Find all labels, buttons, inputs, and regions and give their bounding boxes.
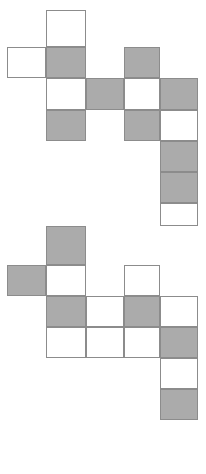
grid-cell-lower-r9-c3	[124, 296, 160, 327]
grid-cell-lower-r10-c1	[46, 327, 87, 358]
grid-cell-lower-r9-c1	[46, 296, 87, 327]
grid-cell-lower-r10-c3	[124, 327, 160, 358]
grid-cell-lower-r9-c4	[160, 296, 198, 327]
grid-cell-lower-r12-c4	[160, 389, 198, 420]
grid-cell-lower-r10-c4	[160, 327, 198, 358]
lower-figure	[0, 0, 206, 474]
grid-cell-lower-r11-c4	[160, 358, 198, 389]
grid-cell-lower-r7-c1	[46, 226, 87, 265]
grid-cell-lower-r8-c1	[46, 265, 87, 296]
grid-cell-lower-r9-c2	[86, 296, 124, 327]
grid-cell-lower-r10-c2	[86, 327, 124, 358]
figure-canvas	[0, 0, 206, 474]
grid-cell-lower-r8-c0	[7, 265, 46, 296]
grid-cell-lower-r8-c3	[124, 265, 160, 296]
